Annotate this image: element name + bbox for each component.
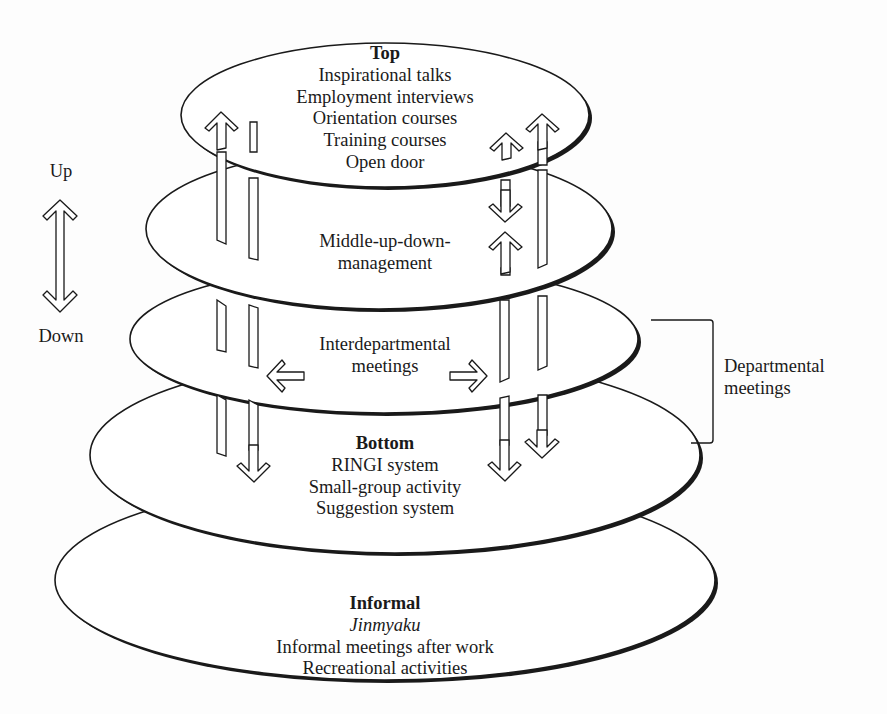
up-label: Up (36, 161, 86, 183)
up-down-double-arrow-icon (43, 200, 77, 312)
level-item: Training courses (285, 130, 485, 152)
level-item: meetings (285, 356, 485, 378)
level-item: Inspirational talks (285, 65, 485, 87)
level-title: Bottom (285, 433, 485, 455)
diagram-canvas: Up Down Top Inspirational talks Employme… (0, 0, 887, 714)
level-item: Suggestion system (285, 498, 485, 520)
level-title: Informal (235, 593, 535, 615)
level-top: Top Inspirational talks Employment inter… (285, 43, 485, 174)
level-middle: Middle-up-down- management (285, 231, 485, 275)
level-item: Open door (285, 152, 485, 174)
level-item: Small-group activity (285, 477, 485, 499)
bracket-label-line: meetings (724, 378, 825, 400)
level-item: Employment interviews (285, 87, 485, 109)
level-interdepartmental: Interdepartmental meetings (285, 334, 485, 378)
level-item: Informal meetings after work (235, 637, 535, 659)
level-item: management (285, 253, 485, 275)
level-item: Recreational activities (235, 658, 535, 680)
down-label: Down (28, 326, 94, 348)
level-item: RINGI system (285, 455, 485, 477)
level-item: Orientation courses (285, 108, 485, 130)
level-bottom: Bottom RINGI system Small-group activity… (285, 433, 485, 520)
level-item: Middle-up-down- (285, 231, 485, 253)
level-informal: Informal Jinmyaku Informal meetings afte… (235, 593, 535, 680)
level-item-italic: Jinmyaku (235, 615, 535, 637)
level-item: Interdepartmental (285, 334, 485, 356)
bracket-label-line: Departmental (724, 356, 825, 378)
departmental-meetings-label: Departmental meetings (724, 356, 825, 400)
level-title: Top (285, 43, 485, 65)
